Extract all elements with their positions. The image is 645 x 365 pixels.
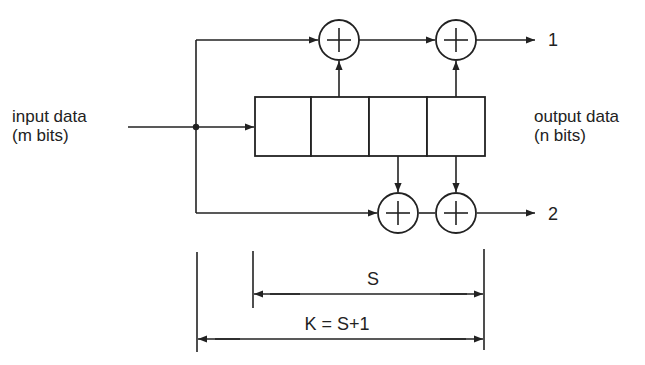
register-cell-3 [369,97,427,156]
input-data-label: input data [12,107,87,126]
k-span-label: K = S+1 [304,314,369,334]
plus-circle-icon [378,193,418,233]
register-cell-1 [255,97,311,156]
register-cell-2 [311,97,369,156]
output-data-label: output data [534,107,620,126]
plus-circle-icon [436,193,476,233]
convolutional-encoder-diagram: input data (m bits) [0,0,645,365]
s-span-label: S [367,269,379,289]
register-cell-4 [427,97,485,156]
output-2-label: 2 [548,204,558,224]
output-bits-label: (n bits) [534,126,586,145]
output-1-label: 1 [548,30,558,50]
input-bits-label: (m bits) [12,126,69,145]
shift-register [255,97,485,156]
plus-circle-icon [319,20,359,60]
plus-circle-icon [436,20,476,60]
